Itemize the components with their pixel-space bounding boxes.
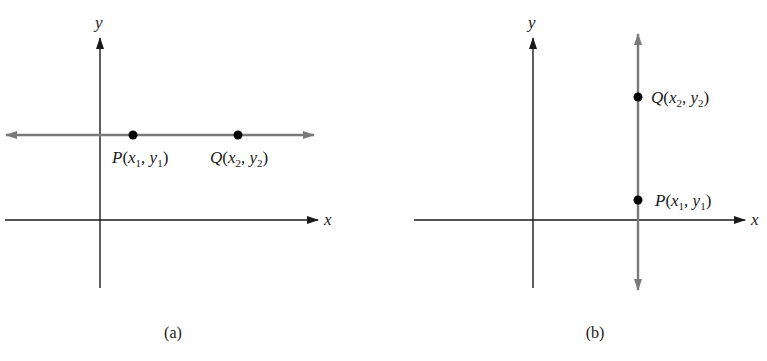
point-q-label: Q(x2, y2) — [210, 148, 268, 169]
caption-a: (a) — [164, 324, 182, 342]
x-axis-label: x — [750, 210, 759, 229]
y-axis-label: y — [93, 13, 103, 32]
panel-b: y x Q(x2, y2) P(x1, y1) (b) — [414, 13, 759, 342]
point-q — [234, 131, 243, 140]
point-q-label: Q(x2, y2) — [651, 88, 709, 109]
panel-a: y x P(x1, y1) Q(x2, y2) (a) — [5, 13, 332, 342]
caption-b: (b) — [586, 324, 605, 342]
point-p — [129, 131, 138, 140]
point-p-label: P(x1, y1) — [654, 191, 711, 212]
diagram-canvas: y x P(x1, y1) Q(x2, y2) (a) y x Q(x2, y2… — [0, 0, 767, 361]
point-p-label: P(x1, y1) — [111, 148, 168, 169]
y-axis-label: y — [526, 13, 536, 32]
x-axis-label: x — [323, 210, 332, 229]
point-q — [634, 93, 643, 102]
point-p — [634, 196, 643, 205]
